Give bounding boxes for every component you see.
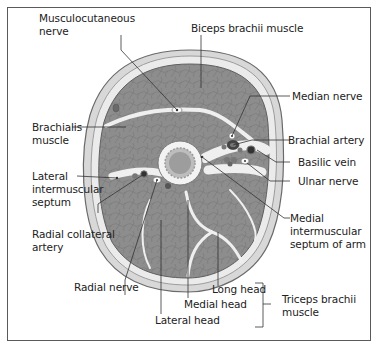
humerus-bone: [158, 141, 202, 185]
label-lateral-head: Lateral head: [155, 314, 220, 327]
label-basilic-vein: Basilic vein: [298, 156, 356, 169]
label-long-head: Long head: [212, 283, 266, 296]
label-triceps-brachii-muscle: Triceps brachii muscle: [282, 293, 356, 319]
label-medial-intermuscular-septum: Medial intermuscular septum of arm: [290, 212, 366, 251]
label-radial-collateral-artery: Radial collateral artery: [32, 228, 115, 254]
label-musculocutaneous-nerve: Musculocutaneous nerve: [39, 12, 135, 38]
label-lateral-intermuscular-septum: Lateral intermuscular septum: [32, 170, 103, 209]
label-median-nerve: Median nerve: [292, 90, 362, 103]
label-biceps-brachii-muscle: Biceps brachii muscle: [191, 22, 303, 35]
label-brachialis-muscle: Brachialis muscle: [32, 121, 82, 147]
label-medial-head: Medial head: [184, 298, 247, 311]
label-ulnar-nerve: Ulnar nerve: [298, 175, 358, 188]
label-brachial-artery: Brachial artery: [288, 134, 364, 147]
label-radial-nerve: Radial nerve: [74, 281, 139, 294]
